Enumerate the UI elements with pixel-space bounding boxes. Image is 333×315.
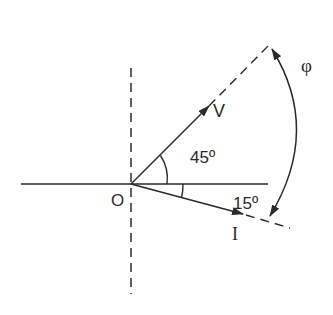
origin-label: O — [111, 191, 124, 210]
current-phasor-arrow — [131, 184, 243, 214]
current-phasor-extension — [246, 215, 290, 228]
voltage-phasor-arrow — [131, 106, 209, 184]
phase-angle-arc — [270, 49, 297, 216]
current-label: I — [232, 224, 238, 244]
phasor-diagram: O V 45º 15º I φ — [0, 0, 333, 315]
angle-arc-45 — [161, 156, 168, 185]
voltage-phasor-extension — [209, 44, 270, 106]
voltage-angle-label: 45º — [190, 148, 215, 167]
voltage-label: V — [213, 101, 225, 121]
current-angle-label: 15º — [233, 194, 258, 213]
phase-difference-label: φ — [301, 55, 312, 76]
angle-arc-15 — [182, 184, 184, 198]
